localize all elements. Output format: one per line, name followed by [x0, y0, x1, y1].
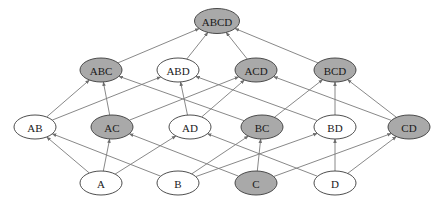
edge-d-to-cd [348, 137, 397, 174]
node-label: AD [182, 122, 198, 134]
node-d: D [314, 171, 356, 195]
edge-abc-to-abcd [118, 29, 199, 63]
edge-a-to-ab [47, 137, 90, 173]
node-label: AB [27, 122, 42, 134]
edge-b-to-bd [196, 133, 317, 176]
node-ad: AD [169, 115, 211, 139]
edge-abd-to-abcd [187, 32, 208, 59]
node-bd: BD [314, 115, 356, 139]
node-b: B [157, 171, 199, 195]
node-abcd: ABCD [195, 9, 240, 34]
node-ac: AC [91, 115, 133, 139]
node-label: D [331, 178, 339, 190]
node-label: B [174, 178, 181, 190]
node-label: BC [255, 122, 270, 134]
node-acd: ACD [235, 58, 277, 82]
edge-d-to-ad [207, 134, 317, 177]
node-abc: ABC [80, 58, 122, 82]
node-label: A [97, 178, 105, 190]
edge-a-to-ad [115, 136, 176, 174]
subset-lattice-diagram: ABCDABCABDACDBCDABACADBCBDCDABCD [0, 0, 435, 204]
node-ab: AB [14, 115, 56, 139]
edge-ac-to-abc [103, 82, 109, 115]
node-abd: ABD [157, 58, 199, 82]
node-cd: CD [388, 115, 430, 139]
edge-cd-to-bcd [348, 80, 397, 118]
edge-acd-to-abcd [226, 32, 247, 59]
node-c: C [235, 171, 277, 195]
node-label: CD [401, 122, 416, 134]
edge-bc-to-abc [119, 76, 244, 120]
edges-layer [47, 29, 397, 177]
node-label: AC [104, 122, 119, 134]
edge-ab-to-abc [47, 80, 90, 117]
node-label: ABD [166, 65, 189, 77]
node-label: BCD [324, 65, 347, 77]
node-label: ABC [90, 65, 113, 77]
node-label: ACD [244, 65, 267, 77]
node-label: C [252, 178, 259, 190]
node-bc: BC [241, 115, 283, 139]
edge-bc-to-bcd [274, 80, 322, 118]
node-bcd: BCD [314, 58, 356, 82]
edge-cd-to-acd [274, 77, 392, 121]
node-label: BD [327, 122, 342, 134]
edge-ad-to-acd [202, 80, 245, 117]
node-label: ABCD [202, 16, 233, 28]
edge-c-to-cd [274, 134, 392, 177]
edge-bcd-to-abcd [235, 29, 318, 63]
node-a: A [80, 171, 122, 195]
